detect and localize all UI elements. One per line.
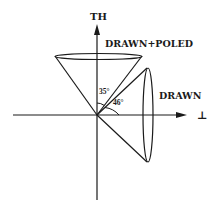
angle-arc-35 bbox=[97, 103, 104, 105]
cone-diagram: TH DRAWN+POLED DRAWN 35° 46° ⊥ bbox=[0, 0, 215, 212]
horizontal-arrow-icon bbox=[176, 112, 187, 118]
drawn-label: DRAWN bbox=[159, 90, 202, 101]
angle-arc-46 bbox=[105, 108, 119, 116]
angle-label-35: 35° bbox=[99, 87, 110, 96]
vertical-arrow-icon bbox=[94, 24, 100, 35]
drawn-poled-label: DRAWN+POLED bbox=[105, 38, 193, 49]
vertical-axis-label: TH bbox=[90, 11, 107, 22]
angle-label-46: 46° bbox=[113, 98, 124, 107]
horizontal-axis-label: ⊥ bbox=[197, 109, 208, 122]
